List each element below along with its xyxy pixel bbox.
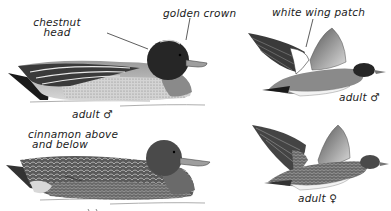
label-white-wing-patch: white wing patch [272, 7, 365, 17]
male-flying-figure [248, 19, 386, 96]
caption-female-flying: adult ♀ [298, 193, 337, 203]
label-cinnamon-above-below: cinnamon above and below [28, 129, 106, 149]
female-flying-figure [252, 125, 389, 190]
label-chestnut-head: chestnut head [28, 17, 86, 37]
illustration-plate: chestnut head golden crown adult ♂ white… [0, 0, 391, 211]
label-golden-crown: golden crown [163, 8, 236, 18]
label-line-2: and below [28, 139, 106, 149]
caption-male-flying: adult ♂ [339, 92, 380, 102]
caption-male-swimming: adult ♂ [72, 109, 113, 119]
label-line-2: head [28, 27, 86, 37]
female-swimming-figure [6, 140, 210, 211]
